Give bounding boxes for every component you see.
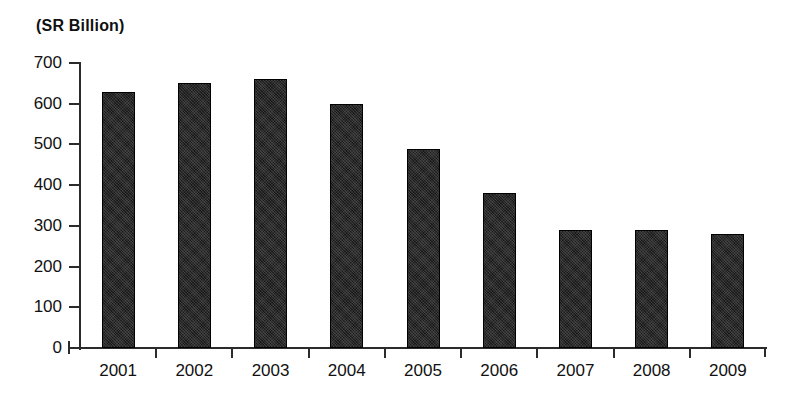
y-axis-label: 200 bbox=[0, 258, 62, 275]
y-axis-tick bbox=[69, 306, 80, 308]
x-axis-tick bbox=[155, 349, 157, 358]
x-axis-tick bbox=[689, 349, 691, 358]
bar bbox=[330, 104, 363, 348]
y-axis-tick bbox=[69, 184, 80, 186]
y-axis-tick bbox=[69, 143, 80, 145]
bar bbox=[483, 193, 516, 348]
chart-title: (SR Billion) bbox=[36, 17, 125, 35]
y-axis-tick bbox=[69, 103, 80, 105]
y-axis-label: 700 bbox=[0, 54, 62, 71]
x-axis-tick bbox=[613, 349, 615, 358]
x-axis-label: 2002 bbox=[156, 362, 232, 379]
y-axis-label: 100 bbox=[0, 298, 62, 315]
x-axis-label: 2006 bbox=[461, 362, 537, 379]
x-axis-tick bbox=[384, 349, 386, 358]
bar bbox=[178, 83, 211, 348]
bar-chart: (SR Billion) 7006005004003002001000 2001… bbox=[0, 0, 795, 405]
y-axis-label: 600 bbox=[0, 95, 62, 112]
y-axis-label: 400 bbox=[0, 176, 62, 193]
x-axis-tick bbox=[231, 349, 233, 358]
plot-area bbox=[80, 63, 766, 348]
x-axis-tick bbox=[460, 349, 462, 358]
x-axis-label: 2003 bbox=[232, 362, 308, 379]
y-axis-label: 500 bbox=[0, 135, 62, 152]
x-axis-label: 2008 bbox=[614, 362, 690, 379]
x-axis-tick bbox=[308, 349, 310, 358]
x-axis-tick bbox=[536, 349, 538, 358]
x-axis-label: 2001 bbox=[80, 362, 156, 379]
x-axis-label: 2009 bbox=[690, 362, 766, 379]
y-axis-tick bbox=[69, 225, 80, 227]
axis-origin-tick bbox=[68, 341, 70, 354]
bar bbox=[407, 149, 440, 349]
y-axis-tick bbox=[69, 62, 80, 64]
bar bbox=[102, 92, 135, 349]
y-axis-label: 300 bbox=[0, 217, 62, 234]
bar bbox=[711, 234, 744, 348]
x-axis-label: 2005 bbox=[385, 362, 461, 379]
bar bbox=[559, 230, 592, 348]
y-axis-tick bbox=[69, 266, 80, 268]
x-axis-label: 2007 bbox=[537, 362, 613, 379]
y-axis-label: 0 bbox=[0, 339, 62, 356]
x-axis-label: 2004 bbox=[309, 362, 385, 379]
bar bbox=[635, 230, 668, 348]
x-axis-end-tick bbox=[764, 348, 766, 357]
bar bbox=[254, 79, 287, 348]
